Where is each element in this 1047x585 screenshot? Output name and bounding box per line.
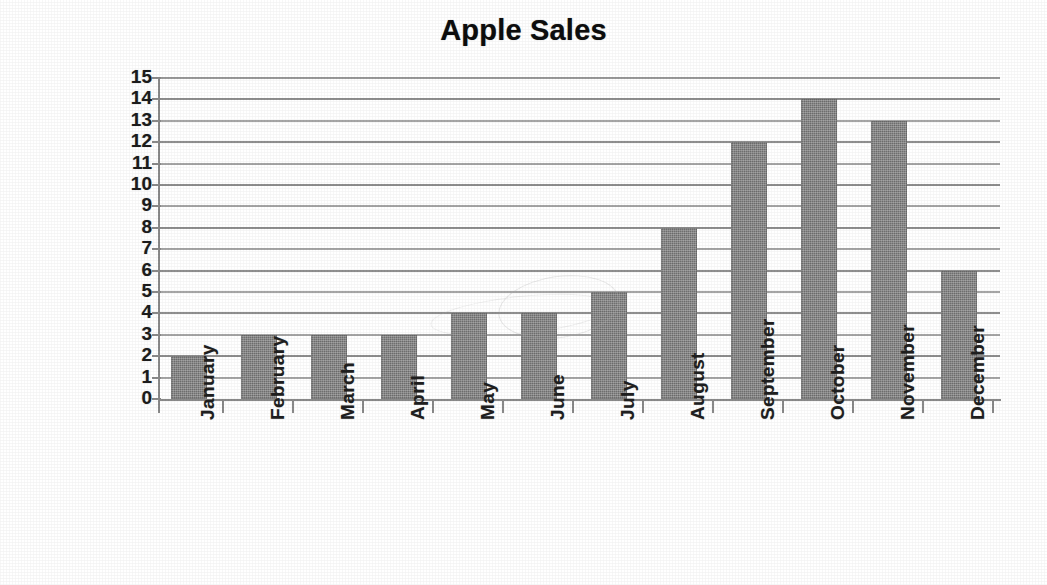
- x-axis-label-february: February: [267, 250, 289, 420]
- y-axis-tick: [152, 291, 161, 293]
- x-axis-label-january: January: [197, 250, 219, 420]
- y-axis-tick-label: 6: [106, 262, 152, 278]
- x-axis-label-july: July: [617, 250, 639, 420]
- x-axis-label-june: June: [547, 250, 569, 420]
- gridline: [160, 98, 1000, 100]
- x-axis-tick: [158, 401, 160, 413]
- y-axis-tick: [152, 205, 161, 207]
- x-axis-label-march: March: [337, 250, 359, 420]
- y-axis-tick-label: 9: [106, 197, 152, 213]
- y-axis-tick-label: 1: [106, 369, 152, 385]
- y-axis-tick: [152, 141, 161, 143]
- y-axis-tick: [152, 227, 161, 229]
- y-axis-tick: [152, 248, 161, 250]
- y-axis-tick: [152, 184, 161, 186]
- y-axis-tick: [152, 120, 161, 122]
- y-axis-tick-label: 13: [106, 112, 152, 128]
- x-axis-tick: [922, 401, 924, 413]
- x-axis-tick: [852, 401, 854, 413]
- bar-chart-figure: Apple Sales Apples (tons) 15141312111098…: [0, 0, 1047, 585]
- y-axis-tick-label: 11: [106, 155, 152, 171]
- y-axis-tick: [152, 77, 161, 79]
- x-axis-label-may: May: [477, 250, 499, 420]
- x-axis-tick: [992, 401, 994, 413]
- y-axis-tick-label: 2: [106, 347, 152, 363]
- x-axis-tick: [222, 401, 224, 413]
- x-axis-label-november: November: [897, 250, 919, 420]
- y-axis-tick: [152, 377, 161, 379]
- y-axis-tick: [152, 355, 161, 357]
- x-axis-label-april: April: [407, 250, 429, 420]
- x-axis-tick: [432, 401, 434, 413]
- x-axis-tick: [712, 401, 714, 413]
- y-axis-line: [158, 78, 160, 401]
- y-axis-tick: [152, 398, 161, 400]
- y-axis-tick-label: 12: [106, 133, 152, 149]
- y-axis-tick: [152, 163, 161, 165]
- x-axis-label-october: October: [827, 250, 849, 420]
- y-axis-tick: [152, 312, 161, 314]
- y-axis-tick-label: 0: [106, 390, 152, 406]
- y-axis-tick-label: 8: [106, 219, 152, 235]
- x-axis-label-september: September: [757, 250, 779, 420]
- x-axis-tick: [502, 401, 504, 413]
- x-axis-tick: [362, 401, 364, 413]
- x-axis-label-december: December: [967, 250, 989, 420]
- x-axis-tick: [292, 401, 294, 413]
- y-axis-tick-label: 14: [106, 90, 152, 106]
- y-axis-tick-label: 5: [106, 283, 152, 299]
- y-axis-tick-label: 7: [106, 240, 152, 256]
- x-axis-tick: [572, 401, 574, 413]
- y-axis-tick: [152, 98, 161, 100]
- y-axis-tick-label: 15: [106, 69, 152, 85]
- y-axis-tick-labels: 1514131211109876543210: [96, 0, 152, 585]
- gridline: [160, 77, 1000, 79]
- x-axis-tick: [642, 401, 644, 413]
- x-axis-label-august: August: [687, 250, 709, 420]
- y-axis-tick-label: 4: [106, 304, 152, 320]
- y-axis-tick: [152, 334, 161, 336]
- chart-title: Apple Sales: [0, 14, 1047, 47]
- y-axis-tick-label: 3: [106, 326, 152, 342]
- x-axis-tick: [782, 401, 784, 413]
- y-axis-tick: [152, 270, 161, 272]
- y-axis-tick-label: 10: [106, 176, 152, 192]
